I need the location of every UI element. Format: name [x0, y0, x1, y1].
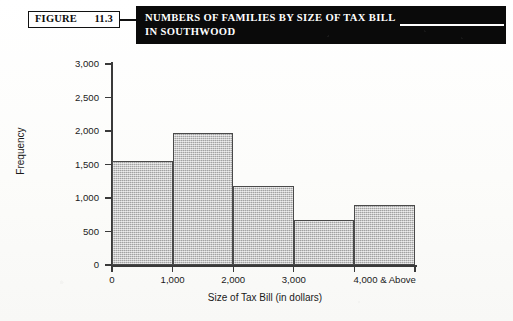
- y-axis-title: Frequency: [16, 96, 26, 206]
- y-axis-tick-label: 2,500: [53, 93, 99, 103]
- figure-tag-number: 11.3: [94, 14, 113, 25]
- y-axis-tick-label: 1,500: [53, 160, 99, 170]
- y-axis-tick: [105, 164, 112, 165]
- y-axis-tick: [105, 231, 112, 232]
- x-axis-line: [111, 265, 417, 267]
- x-axis-tick-label: 2,000: [221, 275, 245, 285]
- figure-tag-connector-line: [120, 19, 137, 21]
- y-axis-tick: [105, 97, 112, 98]
- x-axis-tick-label: 1,000: [161, 275, 185, 285]
- x-axis-title: Size of Tax Bill (in dollars): [112, 293, 418, 303]
- x-axis-tick: [233, 266, 234, 272]
- y-axis-tick-label: 3,000: [53, 59, 99, 69]
- histogram-chart: 05001,0001,5002,0002,5003,000 01,0002,00…: [0, 50, 513, 321]
- histogram-bar: [173, 133, 234, 265]
- figure-number-box: FIGURE 11.3: [28, 11, 120, 28]
- y-axis-tick: [105, 197, 112, 198]
- x-axis-tick: [414, 266, 415, 272]
- figure-tag-word: FIGURE: [35, 14, 77, 25]
- histogram-bar: [233, 186, 294, 265]
- x-axis-tick-label: 3,000: [282, 275, 306, 285]
- figure-title-line-2: IN SOUTHWOOD: [145, 25, 503, 39]
- x-axis-tick: [293, 266, 294, 272]
- y-axis-tick-label: 2,000: [53, 126, 99, 136]
- banner-horizontal-rule: [400, 24, 504, 26]
- x-axis-tick-label: 0: [109, 275, 114, 285]
- figure-header: FIGURE 11.3 NUMBERS OF FAMILIES BY SIZE …: [0, 0, 513, 50]
- histogram-bar: [112, 161, 173, 265]
- histogram-bar: [294, 220, 355, 265]
- x-axis-tick: [172, 266, 173, 272]
- x-axis-tick-label: 4,000 & Above: [353, 275, 415, 285]
- y-axis-tick: [105, 63, 112, 64]
- x-axis-tick: [111, 266, 112, 272]
- y-axis-tick-label: 1,000: [53, 193, 99, 203]
- x-axis-tick: [354, 266, 355, 272]
- y-axis-tick-label: 500: [53, 227, 99, 237]
- figure-title-line-1: NUMBERS OF FAMILIES BY SIZE OF TAX BILL: [145, 11, 503, 25]
- y-axis-tick-label: 0: [53, 260, 99, 270]
- y-axis-tick: [105, 130, 112, 131]
- histogram-bar: [354, 205, 415, 265]
- figure-title-banner: NUMBERS OF FAMILIES BY SIZE OF TAX BILL …: [136, 6, 506, 44]
